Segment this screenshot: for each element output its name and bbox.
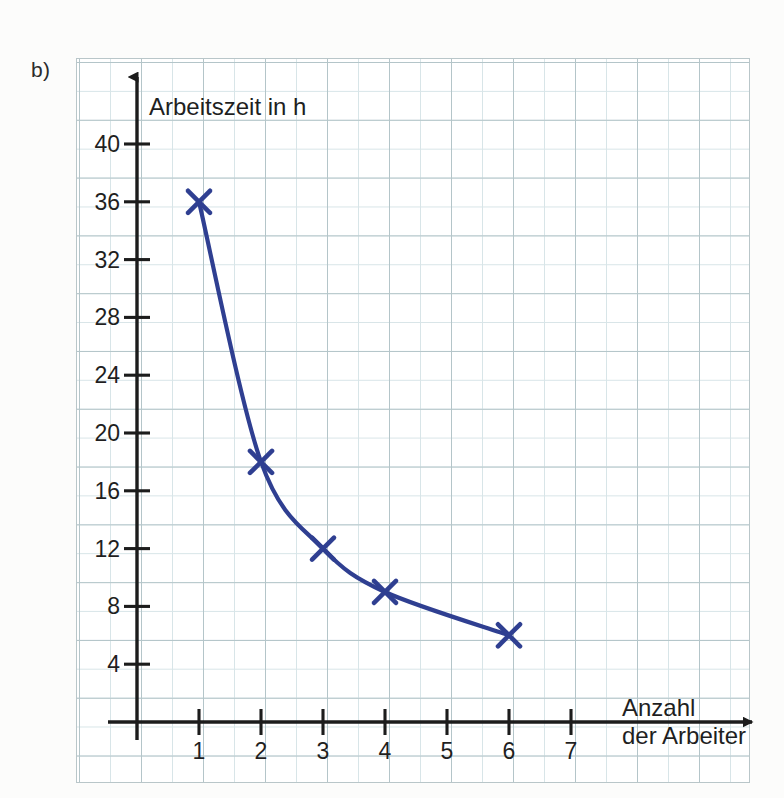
scanned-page: b) Arbeitszeit in h Anzahl der Arbeiter … xyxy=(0,0,784,798)
y-tick-label-36: 36 xyxy=(78,188,120,215)
data-point-4-9 xyxy=(374,581,396,603)
x-tick-label-7: 7 xyxy=(565,738,578,765)
axes xyxy=(108,77,752,740)
y-tick-label-4: 4 xyxy=(78,651,120,678)
y-tick-label-16: 16 xyxy=(78,477,120,504)
x-tick-label-2: 2 xyxy=(255,738,268,765)
x-tick-label-6: 6 xyxy=(503,738,516,765)
x-tick-label-4: 4 xyxy=(379,738,392,765)
data-curve xyxy=(199,202,509,636)
x-tick-label-5: 5 xyxy=(441,738,454,765)
y-tick-label-32: 32 xyxy=(78,246,120,273)
y-tick-label-20: 20 xyxy=(78,420,120,447)
data-point-6-6 xyxy=(498,624,520,646)
y-tick-label-8: 8 xyxy=(78,593,120,620)
y-tick-label-28: 28 xyxy=(78,304,120,331)
x-tick-label-3: 3 xyxy=(317,738,330,765)
y-tick-label-24: 24 xyxy=(78,362,120,389)
y-tick-label-12: 12 xyxy=(78,535,120,562)
plot-area xyxy=(0,0,784,798)
data-point-2-18 xyxy=(250,451,272,473)
data-markers xyxy=(188,191,520,647)
data-point-3-12 xyxy=(312,538,334,560)
x-tick-label-1: 1 xyxy=(193,738,206,765)
y-tick-label-40: 40 xyxy=(78,131,120,158)
